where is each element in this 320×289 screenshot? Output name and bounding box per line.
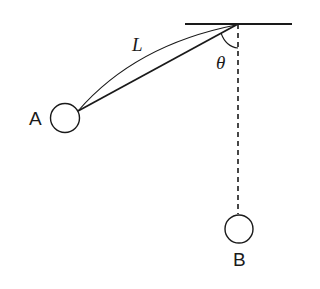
ball-b [225,215,253,243]
length-label: L [131,34,143,55]
angle-label: θ [216,52,225,73]
angle-arc [221,33,238,48]
point-a-label: A [29,108,42,129]
point-b-label: B [233,249,246,270]
ball-a [51,104,80,133]
string-line [78,24,238,111]
pendulum-diagram: L θ A B [0,0,320,289]
